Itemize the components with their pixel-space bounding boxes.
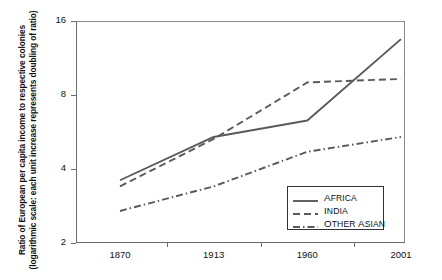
x-axis-tick-label: 1870	[90, 249, 150, 260]
legend-swatch-icon	[293, 192, 318, 202]
legend: AFRICAINDIAOTHER ASIAN	[287, 186, 384, 230]
legend-item-india[interactable]: INDIA	[293, 204, 378, 216]
x-axis-tick-label: 1960	[277, 249, 337, 260]
plot-area: 24816 1870191319602001 AFRICAINDIAOTHER …	[76, 21, 405, 243]
legend-label: OTHER ASIAN	[324, 218, 385, 229]
series-line-india	[120, 79, 401, 186]
y-axis-tick-label: 2	[26, 236, 66, 247]
y-axis-tick-label: 4	[26, 162, 66, 173]
x-axis-tick-label: 1913	[184, 249, 244, 260]
y-axis-title: Ratio of European per capita income to r…	[17, 6, 39, 274]
legend-item-other-asian[interactable]: OTHER ASIAN	[293, 217, 378, 229]
legend-swatch-icon	[293, 205, 318, 215]
legend-item-africa[interactable]: AFRICA	[293, 191, 378, 203]
legend-swatch-icon	[293, 218, 318, 228]
y-axis-tick-label: 16	[26, 14, 66, 25]
legend-label: AFRICA	[324, 192, 357, 203]
chart-container: Ratio of European per capita income to r…	[0, 0, 442, 280]
legend-label: INDIA	[324, 205, 348, 216]
y-axis-tick	[71, 243, 76, 244]
y-axis-tick-label: 8	[26, 88, 66, 99]
x-axis-tick-label: 2001	[371, 249, 431, 260]
